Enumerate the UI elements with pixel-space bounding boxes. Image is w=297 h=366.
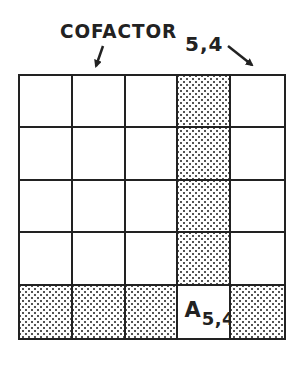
cell-r1-c1 bbox=[20, 76, 73, 128]
cell-r4-c1 bbox=[20, 233, 73, 285]
cell-r4-c2 bbox=[73, 233, 126, 285]
cell-r4-c5 bbox=[231, 233, 284, 285]
pivot-label-main: A bbox=[184, 298, 200, 322]
cell-r2-c5 bbox=[231, 128, 284, 180]
cell-r4-c4-shaded bbox=[178, 233, 231, 285]
cell-r3-c2 bbox=[73, 181, 126, 233]
cell-r1-c2 bbox=[73, 76, 126, 128]
pivot-label-subscript: 5,4 bbox=[202, 308, 235, 329]
cofactor-diagram: COFACTOR 5,4 bbox=[0, 0, 297, 366]
cell-r2-c4-shaded bbox=[178, 128, 231, 180]
cell-r1-c5 bbox=[231, 76, 284, 128]
cofactor-arrow-icon bbox=[96, 46, 103, 66]
cell-r3-c4-shaded bbox=[178, 181, 231, 233]
matrix-grid: A5,4 bbox=[18, 74, 286, 340]
pivot-cell-a54: A5,4 bbox=[178, 286, 231, 338]
cell-r1-c4-shaded bbox=[178, 76, 231, 128]
cell-r3-c5 bbox=[231, 181, 284, 233]
cell-r5-c2-shaded bbox=[73, 286, 126, 338]
cell-r4-c3 bbox=[126, 233, 179, 285]
cofactor-index-label: 5,4 bbox=[185, 33, 223, 55]
cell-r5-c3-shaded bbox=[126, 286, 179, 338]
cell-r3-c3 bbox=[126, 181, 179, 233]
cell-r5-c5-shaded bbox=[231, 286, 284, 338]
cell-r2-c1 bbox=[20, 128, 73, 180]
cofactor-label: COFACTOR bbox=[60, 20, 177, 42]
cell-r3-c1 bbox=[20, 181, 73, 233]
cell-r2-c3 bbox=[126, 128, 179, 180]
cell-r1-c3 bbox=[126, 76, 179, 128]
pivot-cell-label: A5,4 bbox=[184, 298, 235, 323]
index-arrow-icon bbox=[228, 46, 252, 65]
cell-r5-c1-shaded bbox=[20, 286, 73, 338]
cell-r2-c2 bbox=[73, 128, 126, 180]
